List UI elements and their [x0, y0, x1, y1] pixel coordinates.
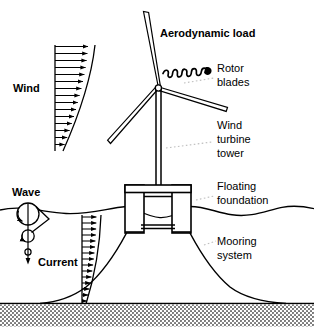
- tower-label-line2: turbine: [217, 133, 251, 145]
- rotor-hub: [155, 85, 161, 91]
- tower-label-line3: tower: [217, 147, 244, 159]
- canvas-background: [0, 0, 314, 333]
- foundation-deck: [125, 185, 191, 193]
- foundation-label-line2: foundation: [217, 194, 268, 206]
- aerodynamic-load-label: Aerodynamic load: [160, 27, 255, 39]
- foundation-label-line1: Floating: [217, 180, 256, 192]
- mooring-label-line1: Mooring: [217, 235, 257, 247]
- current-label: Current: [38, 256, 78, 268]
- wind-label: Wind: [13, 82, 40, 94]
- offshore-wind-diagram: Wind Aerodynamic load: [0, 0, 314, 333]
- mooring-label-line2: system: [217, 249, 252, 261]
- diagram-root: Wind Aerodynamic load: [0, 0, 314, 333]
- rotor-blades-label-line2: blades: [217, 76, 250, 88]
- tower-label-line1: Wind: [217, 119, 242, 131]
- wave-label: Wave: [12, 186, 40, 198]
- rotor-blades-label-line1: Rotor: [217, 62, 244, 74]
- seabed-stipple-icon: [0, 304, 314, 327]
